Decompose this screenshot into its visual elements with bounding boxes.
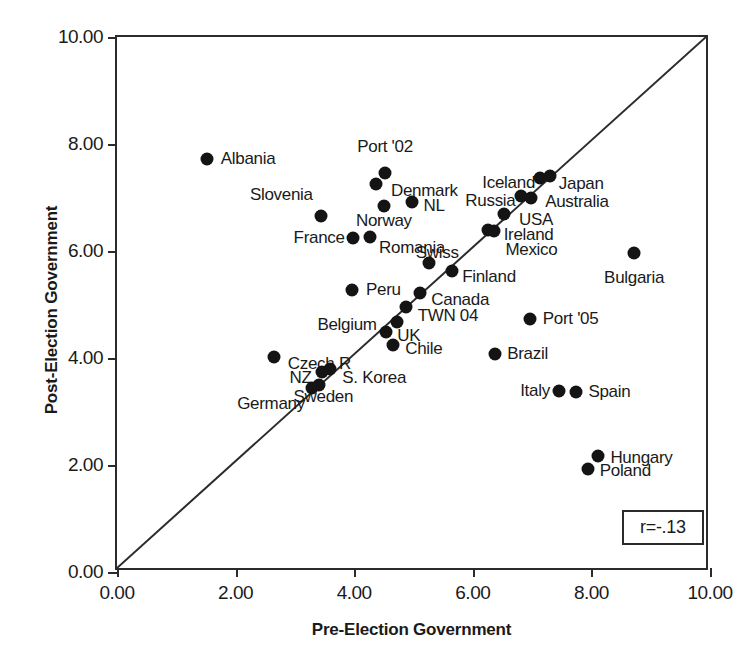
data-point bbox=[552, 385, 565, 398]
data-point-label: Slovenia bbox=[250, 185, 313, 205]
scatter-plot-figure: Post-Election Government Pre-Election Go… bbox=[0, 0, 748, 656]
y-axis-tick-label: 6.00 bbox=[68, 240, 103, 262]
x-axis-tick bbox=[117, 568, 119, 577]
x-axis-tick-label: 2.00 bbox=[218, 582, 253, 604]
data-point-label: Poland bbox=[600, 461, 651, 481]
x-axis-tick bbox=[473, 568, 475, 577]
identity-reference-line bbox=[117, 37, 706, 568]
data-point-label: Albania bbox=[221, 149, 276, 169]
x-axis-tick bbox=[354, 568, 356, 577]
data-point bbox=[488, 224, 501, 237]
data-point bbox=[316, 365, 329, 378]
y-axis-tick bbox=[108, 37, 117, 39]
data-point-label: Belgium bbox=[317, 315, 376, 335]
data-point bbox=[569, 386, 582, 399]
data-point bbox=[345, 283, 358, 296]
y-axis-tick bbox=[108, 251, 117, 253]
data-point-label: Port '05 bbox=[543, 309, 599, 329]
data-point bbox=[268, 350, 281, 363]
x-axis-tick-label: 0.00 bbox=[100, 582, 135, 604]
x-axis-title: Pre-Election Government bbox=[115, 620, 708, 640]
y-axis-tick-label: 2.00 bbox=[68, 454, 103, 476]
data-point-label: Spain bbox=[588, 382, 630, 402]
data-point-label: Peru bbox=[366, 280, 401, 300]
x-axis-tick-label: 10.00 bbox=[687, 582, 732, 604]
data-point bbox=[306, 382, 319, 395]
data-point-label: Italy bbox=[520, 381, 550, 401]
data-point bbox=[446, 265, 459, 278]
data-point bbox=[523, 312, 536, 325]
data-point-label: Port '02 bbox=[357, 137, 413, 157]
data-point bbox=[488, 347, 501, 360]
data-point bbox=[405, 195, 418, 208]
x-axis-tick-label: 4.00 bbox=[337, 582, 372, 604]
data-point-label: TWN 04 bbox=[418, 306, 479, 326]
data-point bbox=[399, 301, 412, 314]
data-point-label: Mexico bbox=[505, 240, 557, 260]
data-point bbox=[347, 232, 360, 245]
x-axis-tick bbox=[236, 568, 238, 577]
y-axis-tick-label: 4.00 bbox=[68, 347, 103, 369]
y-axis-tick bbox=[108, 572, 117, 574]
y-axis-tick bbox=[108, 358, 117, 360]
data-point-label: Chile bbox=[405, 339, 442, 359]
y-axis-tick bbox=[108, 465, 117, 467]
data-point-label: Finland bbox=[462, 267, 516, 287]
data-point bbox=[364, 230, 377, 243]
data-point bbox=[370, 177, 383, 190]
data-point-label: S. Korea bbox=[342, 368, 406, 388]
data-point-label: Iceland bbox=[482, 173, 535, 193]
data-point bbox=[314, 209, 327, 222]
data-point bbox=[387, 339, 400, 352]
data-point bbox=[524, 191, 537, 204]
data-point bbox=[543, 169, 556, 182]
x-axis-tick-label: 8.00 bbox=[574, 582, 609, 604]
data-point-label: NL bbox=[424, 196, 445, 216]
data-point-label: Germany bbox=[237, 394, 305, 414]
data-point bbox=[581, 463, 594, 476]
data-point bbox=[497, 207, 510, 220]
y-axis-tick-label: 0.00 bbox=[68, 561, 103, 583]
x-axis-tick bbox=[710, 568, 712, 577]
x-axis-tick bbox=[591, 568, 593, 577]
plot-inner: AlbaniaPort '02DenmarkSloveniaNLNorwayIc… bbox=[117, 37, 706, 568]
data-point bbox=[414, 286, 427, 299]
data-point-label: France bbox=[294, 228, 345, 248]
y-axis-tick bbox=[108, 144, 117, 146]
plot-area: AlbaniaPort '02DenmarkSloveniaNLNorwayIc… bbox=[115, 35, 708, 570]
data-point bbox=[380, 326, 393, 339]
data-point-label: Swiss bbox=[416, 243, 459, 263]
data-point-label: Bulgaria bbox=[604, 268, 664, 288]
y-axis-tick-label: 8.00 bbox=[68, 133, 103, 155]
data-point-label: Australia bbox=[545, 192, 608, 212]
correlation-annotation: r=-.13 bbox=[622, 510, 704, 545]
data-point-label: Norway bbox=[356, 211, 412, 231]
data-point-label: Brazil bbox=[507, 344, 548, 364]
data-point bbox=[201, 152, 214, 165]
x-axis-tick-label: 6.00 bbox=[455, 582, 490, 604]
data-point bbox=[628, 247, 641, 260]
y-axis-title: Post-Election Government bbox=[42, 80, 62, 540]
y-axis-tick-label: 10.00 bbox=[58, 26, 103, 48]
